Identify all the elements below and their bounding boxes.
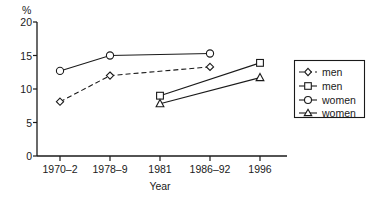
x-tick-label-1970-2: 1970–2 [42,163,77,175]
circle-data-marker [56,67,63,74]
y-tick-label-5: 5 [26,117,32,129]
circle-data-marker [106,52,113,59]
plot-series-layer [56,50,263,107]
triangle-data-marker [256,73,264,80]
square-data-marker [157,92,164,99]
y-tick-label-10: 10 [20,83,32,95]
x-tick-label-1996: 1996 [248,163,272,175]
legend-label-4: women [321,107,356,119]
square-data-marker [257,59,264,66]
series-women-circle [56,50,213,75]
circle-icon [305,97,312,104]
y-tick-label-0: 0 [26,150,32,162]
chart-figure: % 20 15 10 5 0 1970–2 1978–9 1981 1986–9… [0,0,371,202]
line-chart-svg: % 20 15 10 5 0 1970–2 1978–9 1981 1986–9… [0,0,371,202]
x-tick-label-1981: 1981 [148,163,172,175]
series-men-diamond [56,63,213,105]
x-tick-label-1978-9: 1978–9 [92,163,127,175]
y-tick-label-15: 15 [20,50,32,62]
legend-label-2: men [322,80,343,92]
y-tick-label-20: 20 [20,16,32,28]
series-line-2 [60,53,210,70]
diamond-data-marker [56,98,63,105]
x-tick-label-1986-92: 1986–92 [190,163,231,175]
diamond-data-marker [206,63,213,70]
square-icon [305,83,312,90]
circle-data-marker [206,50,213,57]
y-axis-unit-label: % [22,4,31,16]
legend-label-3: women [321,94,356,106]
legend-label-1: men [322,66,343,78]
diamond-data-marker [106,72,113,79]
series-women-triangle [156,73,264,106]
chart-legend: men men women women [295,61,365,119]
x-axis-title: Year [149,180,171,192]
